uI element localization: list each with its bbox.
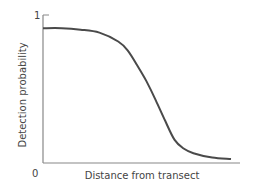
x-axis-label: Distance from transect — [85, 170, 200, 181]
y-axis-label: Detection probability — [17, 42, 28, 147]
origin-label: 0 — [32, 168, 38, 179]
chart-canvas — [0, 0, 261, 192]
y-tick-label-1: 1 — [34, 10, 40, 21]
detection-curve — [43, 28, 231, 159]
